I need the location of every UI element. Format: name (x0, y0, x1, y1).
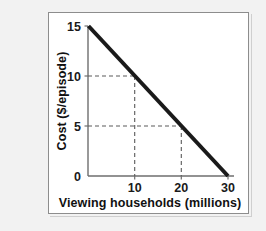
y-tick-label-10: 10 (67, 70, 81, 84)
x-axis-title: Viewing households (millions) (59, 196, 242, 210)
y-tick-label-5: 5 (74, 120, 81, 134)
y-tick-label-15: 15 (67, 20, 81, 34)
y-tick-label-0: 0 (74, 170, 81, 184)
x-tick-label-30: 30 (221, 181, 235, 195)
guide-lines-group (88, 76, 181, 176)
y-axis-title: Cost ($/episode) (55, 52, 69, 151)
cost-curve-line (89, 26, 229, 176)
x-tick-label-10: 10 (128, 181, 142, 195)
x-tick-label-20: 20 (174, 181, 188, 195)
cost-vs-viewing-households-chart: 15 10 5 0 10 20 30 Cost ($/episode) View… (0, 0, 266, 231)
